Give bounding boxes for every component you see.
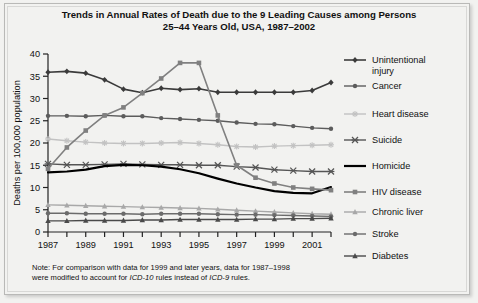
x-tick-label: 1993: [151, 240, 171, 250]
legend-label: Suicide: [372, 135, 402, 145]
y-axis-ticks: 0510152025303540: [30, 49, 48, 237]
y-tick-label: 35: [30, 72, 40, 82]
legend-label: Unintentional: [372, 55, 426, 65]
series-heart-disease: [45, 136, 334, 150]
x-tick-label: 1987: [38, 240, 58, 250]
series-marker: [177, 140, 183, 146]
chart-canvas: Trends in Annual Rates of Death due to t…: [0, 0, 478, 303]
series-unintentional-injury: [45, 68, 333, 95]
series-hiv-disease: [46, 61, 334, 193]
footnote-text: rules instead of: [154, 273, 210, 282]
y-tick-label: 0: [35, 227, 40, 237]
legend-swatch-marker: [352, 57, 357, 63]
series-marker: [216, 212, 220, 216]
series-marker: [121, 86, 126, 92]
series-marker: [178, 61, 183, 66]
series-marker: [309, 168, 316, 174]
legend-item-hiv-disease[interactable]: HIV disease: [344, 187, 422, 197]
series-marker: [196, 86, 201, 92]
y-tick-label: 20: [30, 138, 40, 148]
legend-item-diabetes[interactable]: Diabetes: [344, 251, 409, 261]
series-marker: [45, 69, 50, 75]
series-marker: [159, 116, 163, 120]
series-marker: [102, 140, 108, 146]
x-tick-label: 1995: [189, 240, 209, 250]
series-layer: [45, 61, 335, 223]
legend-swatch-marker: [352, 137, 359, 143]
series-line: [48, 139, 331, 147]
series-marker: [310, 126, 314, 130]
legend-item-suicide[interactable]: Suicide: [344, 135, 402, 145]
legend-item-stroke[interactable]: Stroke: [344, 229, 399, 239]
series-suicide: [45, 161, 335, 175]
series-marker: [234, 89, 239, 95]
x-tick-label: 2001: [302, 240, 322, 250]
series-marker: [177, 162, 184, 168]
series-marker: [253, 212, 257, 216]
series-marker: [159, 85, 164, 91]
series-marker: [234, 120, 238, 124]
series-marker: [234, 144, 240, 150]
y-axis-title: Deaths per 100,000 population: [12, 80, 22, 206]
legend-label: Diabetes: [372, 251, 409, 261]
figure-root: Trends in Annual Rates of Death due to t…: [0, 0, 478, 303]
y-tick-label: 30: [30, 94, 40, 104]
footnote-icd-code: ICD-10: [130, 273, 155, 282]
series-marker: [159, 76, 164, 81]
series-marker: [84, 212, 88, 216]
footnote-line1: Note: For comparison with data for 1999 …: [32, 263, 290, 272]
y-tick-label: 10: [30, 183, 40, 193]
series-marker: [328, 80, 333, 86]
legend-label: Cancer: [372, 81, 402, 91]
x-tick-label: 1991: [113, 240, 133, 250]
series-marker: [64, 68, 69, 74]
x-tick-label: 1989: [76, 240, 96, 250]
chart-title-line1: Trends in Annual Rates of Death due to t…: [62, 9, 417, 20]
series-marker: [196, 140, 202, 146]
legend-label: Chronic liver: [372, 207, 423, 217]
chart-title-line2: 25–44 Years Old, USA, 1987–2002: [163, 21, 315, 32]
series-marker: [121, 212, 125, 216]
legend-item-heart-disease[interactable]: Heart disease: [344, 109, 429, 119]
legend-label: Stroke: [372, 229, 399, 239]
series-marker: [140, 212, 144, 216]
y-tick-label: 25: [30, 116, 40, 126]
series-marker: [159, 212, 163, 216]
legend-item-homicide[interactable]: Homicide: [344, 161, 410, 171]
series-marker: [234, 163, 239, 168]
series-marker: [253, 122, 257, 126]
series-marker: [253, 89, 258, 95]
legend-swatch-marker: [353, 190, 358, 195]
series-homicide: [48, 165, 331, 193]
series-marker: [310, 88, 315, 94]
series-marker: [139, 140, 145, 146]
series-line: [48, 165, 331, 193]
series-line: [48, 71, 331, 92]
footnote-text: were modified to account for: [31, 273, 130, 282]
series-marker: [46, 167, 51, 172]
legend-swatch-marker: [352, 111, 358, 117]
series-marker: [45, 136, 51, 142]
legend-label: Homicide: [372, 161, 410, 171]
x-axis-ticks: 19871989199119931995199719992001: [38, 232, 331, 250]
series-marker: [291, 185, 296, 190]
series-marker: [158, 140, 164, 146]
series-line: [48, 205, 331, 214]
series-marker: [290, 168, 297, 174]
series-marker: [102, 212, 106, 216]
legend-item-unintentional-injury[interactable]: Unintentionalinjury: [344, 55, 426, 76]
series-marker: [120, 140, 126, 146]
series-marker: [102, 77, 107, 83]
series-marker: [46, 114, 50, 118]
x-tick-label: 1997: [226, 240, 246, 250]
legend-item-cancer[interactable]: Cancer: [344, 81, 402, 91]
y-tick-label: 15: [30, 161, 40, 171]
legend-swatch-marker: [353, 232, 357, 236]
series-marker: [253, 144, 259, 150]
series-marker: [83, 139, 89, 145]
series-marker: [64, 138, 70, 144]
series-marker: [328, 142, 334, 148]
y-tick-label: 5: [35, 205, 40, 215]
legend-item-chronic-liver[interactable]: Chronic liver: [344, 207, 423, 217]
series-marker: [121, 105, 126, 110]
